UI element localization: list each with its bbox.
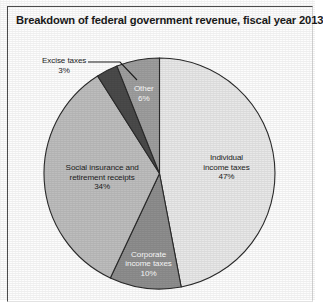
slice-label-line2: retirement receipts bbox=[66, 173, 139, 183]
slice-label-line1: Corporate bbox=[125, 250, 172, 260]
slice-label-line1: Other bbox=[134, 84, 154, 94]
slice-label-line1: Social insurance and bbox=[66, 163, 139, 173]
slice-label-line2: income taxes bbox=[203, 163, 250, 173]
slice-label-corporate-income-taxes: Corporate income taxes 10% bbox=[125, 250, 172, 279]
slice-label-line2: income taxes bbox=[125, 259, 172, 269]
slice-label-excise-taxes: Excise taxes 3% bbox=[42, 56, 86, 75]
slice-label-value: 6% bbox=[134, 94, 154, 104]
slice-label-individual-income-taxes: Individual income taxes 47% bbox=[203, 153, 250, 182]
slice-label-value: 10% bbox=[125, 269, 172, 279]
slice-label-line1: Excise taxes bbox=[42, 56, 86, 66]
slice-label-other: Other 6% bbox=[134, 84, 154, 103]
slice-label-value: 34% bbox=[66, 182, 139, 192]
slice-label-value: 3% bbox=[42, 66, 86, 76]
slice-label-value: 47% bbox=[203, 172, 250, 182]
slice-label-line1: Individual bbox=[203, 153, 250, 163]
slice-label-social-insurance-retirement-receipts: Social insurance and retirement receipts… bbox=[66, 163, 139, 192]
